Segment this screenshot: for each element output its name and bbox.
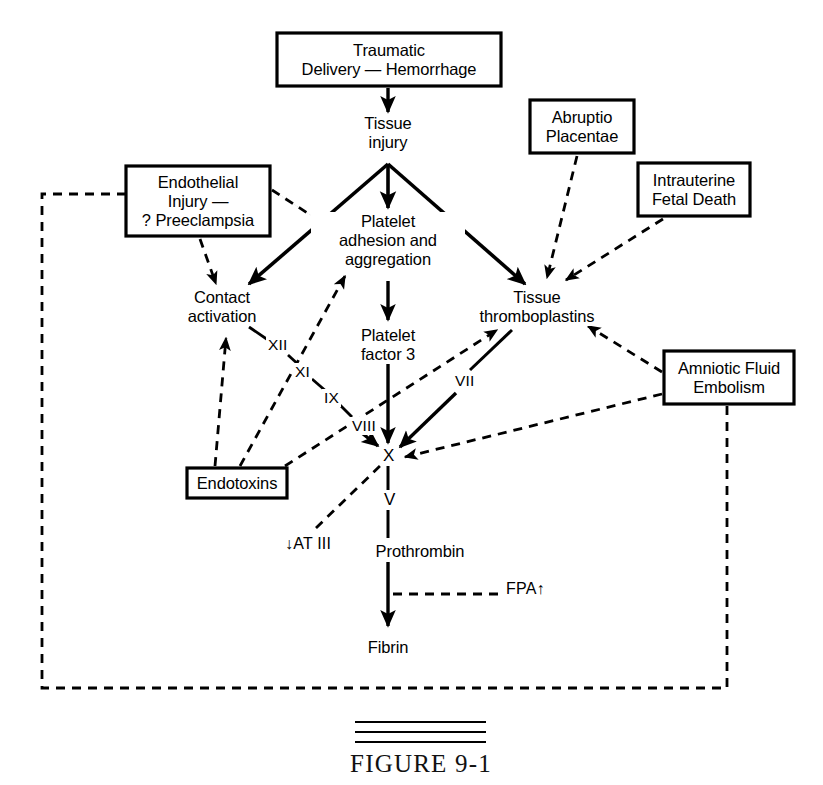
factor-label-v: V	[382, 490, 398, 510]
factor-label-ix: IX	[322, 389, 341, 407]
figure-caption: FIGURE 9-1	[311, 750, 531, 778]
edge-fetal-death-to-thromboplastins	[566, 219, 663, 280]
edge-vii-to-x	[400, 393, 456, 447]
edge-at-iii-to-x	[316, 466, 380, 528]
factor-label-vii: VII	[453, 372, 477, 390]
annotation-at-iii: ↓AT III	[283, 535, 333, 553]
node-tissue-injury: Tissue injury	[328, 114, 448, 152]
edge-endothelial-to-contact	[200, 239, 216, 284]
box-label-intrauterine-fetal-death: Intrauterine Fetal Death	[638, 163, 750, 216]
factor-label-viii: VIII	[350, 417, 378, 435]
factor-label-xi: XI	[293, 363, 312, 381]
box-label-abruptio-placentae: Abruptio Placentae	[530, 100, 634, 153]
node-platelet-factor-3: Platelet factor 3	[336, 326, 440, 364]
box-label-endothelial-injury: Endothelial Injury — ? Preeclampsia	[126, 166, 270, 236]
factor-label-x: X	[381, 446, 397, 466]
node-fibrin: Fibrin	[343, 638, 433, 657]
box-label-amniotic-fluid-embolism: Amniotic Fluid Embolism	[664, 351, 794, 404]
node-platelet-adhesion: Platelet adhesion and aggregation	[311, 212, 465, 269]
node-prothrombin: Prothrombin	[345, 542, 495, 561]
node-contact-activation: Contact activation	[160, 288, 284, 326]
node-tissue-thromboplastins: Tissue thromboplastins	[457, 288, 617, 326]
annotation-fpa: FPA↑	[504, 580, 547, 598]
edge-amniotic-to-thromboplastins	[588, 326, 662, 372]
edge-abruptio-to-thromboplastins	[547, 156, 577, 278]
box-label-endotoxins: Endotoxins	[187, 468, 287, 498]
box-label-traumatic-delivery: Traumatic Delivery — Hemorrhage	[277, 33, 501, 86]
factor-label-xii: XII	[266, 336, 290, 354]
edge-endotoxins-to-contact	[215, 338, 226, 466]
edge-thromboplastins-to-vii	[470, 330, 512, 370]
figure-diagram: Traumatic Delivery — Hemorrhage Endothel…	[0, 0, 823, 785]
